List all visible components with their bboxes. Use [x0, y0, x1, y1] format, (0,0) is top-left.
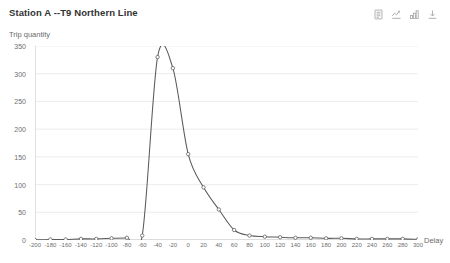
data-point-marker[interactable] [64, 238, 67, 240]
x-tick-label: -100 [106, 242, 118, 248]
data-point-marker[interactable] [49, 238, 52, 240]
x-tick-label: 280 [398, 242, 408, 248]
y-tick-label: 150 [14, 153, 26, 160]
x-tick-label: -200 [29, 242, 41, 248]
y-tick-label: 0 [22, 237, 26, 244]
page-title: Station A --T9 Northern Line [9, 7, 138, 18]
data-point-marker[interactable] [125, 236, 128, 239]
x-tick-label: 240 [367, 242, 377, 248]
x-tick-label: 180 [321, 242, 331, 248]
data-point-marker[interactable] [324, 237, 327, 240]
data-point-marker[interactable] [171, 66, 174, 69]
series-line [35, 46, 418, 240]
x-tick-label: 100 [260, 242, 270, 248]
data-point-marker[interactable] [248, 234, 251, 237]
plot-area [35, 46, 418, 240]
data-point-marker[interactable] [141, 234, 144, 237]
line-bar-switch-icon[interactable] [391, 9, 402, 20]
x-tick-label: -140 [75, 242, 87, 248]
data-point-marker[interactable] [386, 237, 389, 240]
x-tick-label: -60 [138, 242, 147, 248]
x-tick-label: 220 [352, 242, 362, 248]
x-tick-label: 20 [200, 242, 207, 248]
x-tick-label: 260 [382, 242, 392, 248]
y-tick-label: 50 [18, 209, 26, 216]
data-point-marker[interactable] [232, 228, 235, 231]
data-point-marker[interactable] [416, 238, 418, 240]
x-tick-label: 60 [231, 242, 238, 248]
x-tick-label: 80 [246, 242, 253, 248]
x-tick-label: -40 [153, 242, 162, 248]
data-point-marker[interactable] [35, 238, 37, 240]
gridlines [35, 46, 418, 240]
data-point-marker[interactable] [110, 237, 113, 240]
y-tick-label: 250 [14, 98, 26, 105]
data-view-icon[interactable] [373, 9, 384, 20]
x-axis-tick-labels: -200-180-160-140-120-100-80-60-40-200204… [35, 242, 418, 254]
chart-toolbox [373, 9, 438, 20]
data-point-marker[interactable] [95, 237, 98, 240]
data-point-marker[interactable] [156, 55, 159, 58]
y-tick-label: 350 [14, 43, 26, 50]
data-point-marker[interactable] [278, 236, 281, 239]
x-tick-label: 40 [215, 242, 222, 248]
data-point-marker[interactable] [340, 237, 343, 240]
data-point-marker[interactable] [217, 208, 220, 211]
x-tick-label: 200 [336, 242, 346, 248]
x-axis-name: Delay [424, 236, 443, 245]
data-point-marker[interactable] [263, 235, 266, 238]
bar-chart-icon[interactable] [409, 9, 420, 20]
data-point-marker[interactable] [355, 237, 358, 240]
y-tick-label: 100 [14, 181, 26, 188]
y-tick-label: 200 [14, 126, 26, 133]
data-point-marker[interactable] [370, 237, 373, 240]
data-point-marker[interactable] [401, 237, 404, 240]
data-point-marker[interactable] [187, 152, 190, 155]
data-point-marker[interactable] [309, 236, 312, 239]
x-tick-label: -20 [169, 242, 178, 248]
axis-lines [35, 46, 418, 240]
x-tick-label: -160 [60, 242, 72, 248]
data-point-marker[interactable] [79, 237, 82, 240]
x-tick-label: -80 [123, 242, 132, 248]
x-tick-label: 120 [275, 242, 285, 248]
x-tick-label: 160 [306, 242, 316, 248]
x-tick-label: -180 [44, 242, 56, 248]
x-tick-label: 300 [413, 242, 423, 248]
data-point-marker[interactable] [202, 186, 205, 189]
y-axis-name: Trip quantity [9, 30, 50, 39]
download-icon[interactable] [427, 9, 438, 20]
y-axis-tick-labels: 050100150200250300350 [0, 46, 31, 240]
x-tick-label: 0 [187, 242, 190, 248]
x-tick-label: -120 [90, 242, 102, 248]
y-tick-label: 300 [14, 70, 26, 77]
data-point-marker[interactable] [294, 236, 297, 239]
x-tick-label: 140 [290, 242, 300, 248]
